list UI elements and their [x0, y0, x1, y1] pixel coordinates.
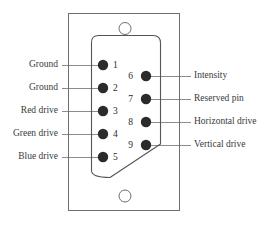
- pin-number-2: 2: [113, 84, 118, 94]
- pin-number-8: 8: [128, 118, 133, 128]
- pin-number-7: 7: [128, 95, 133, 105]
- pin-label-horizontal-drive: Horizontal drive: [194, 117, 257, 127]
- pin-label-red-drive: Red drive: [21, 106, 58, 116]
- pin-label-vertical-drive: Vertical drive: [194, 140, 245, 150]
- pin-dot-7: [141, 94, 151, 104]
- pin-label-ground-1: Ground: [29, 60, 58, 70]
- pin-number-1: 1: [113, 61, 118, 71]
- leader-lines-right: [146, 76, 191, 145]
- pin-number-6: 6: [128, 72, 133, 82]
- pin-dot-4: [98, 129, 108, 139]
- connector-flange-outline: [69, 14, 180, 211]
- pin-label-ground-2: Ground: [29, 83, 58, 93]
- pin-number-5: 5: [113, 153, 118, 163]
- pin-dot-5: [98, 152, 108, 162]
- pin-dots-right: [141, 71, 151, 150]
- pin-dot-6: [141, 71, 151, 81]
- pin-dot-9: [141, 140, 151, 150]
- db9-connector-diagram: Ground Ground Red drive Green drive Blue…: [0, 0, 273, 225]
- bottom-mounting-hole: [119, 190, 131, 202]
- pin-number-4: 4: [113, 130, 118, 140]
- pin-dot-3: [98, 106, 108, 116]
- pin-label-reserved-pin: Reserved pin: [194, 94, 244, 104]
- pin-dot-1: [98, 60, 108, 70]
- pin-dot-8: [141, 117, 151, 127]
- pin-label-blue-drive: Blue drive: [18, 152, 58, 162]
- pin-dots-left: [98, 60, 108, 162]
- top-mounting-hole: [119, 23, 131, 35]
- pin-label-intensity: Intensity: [194, 71, 227, 81]
- pin-dot-2: [98, 83, 108, 93]
- pin-number-9: 9: [128, 141, 133, 151]
- pin-label-green-drive: Green drive: [13, 129, 58, 139]
- pin-number-3: 3: [113, 107, 118, 117]
